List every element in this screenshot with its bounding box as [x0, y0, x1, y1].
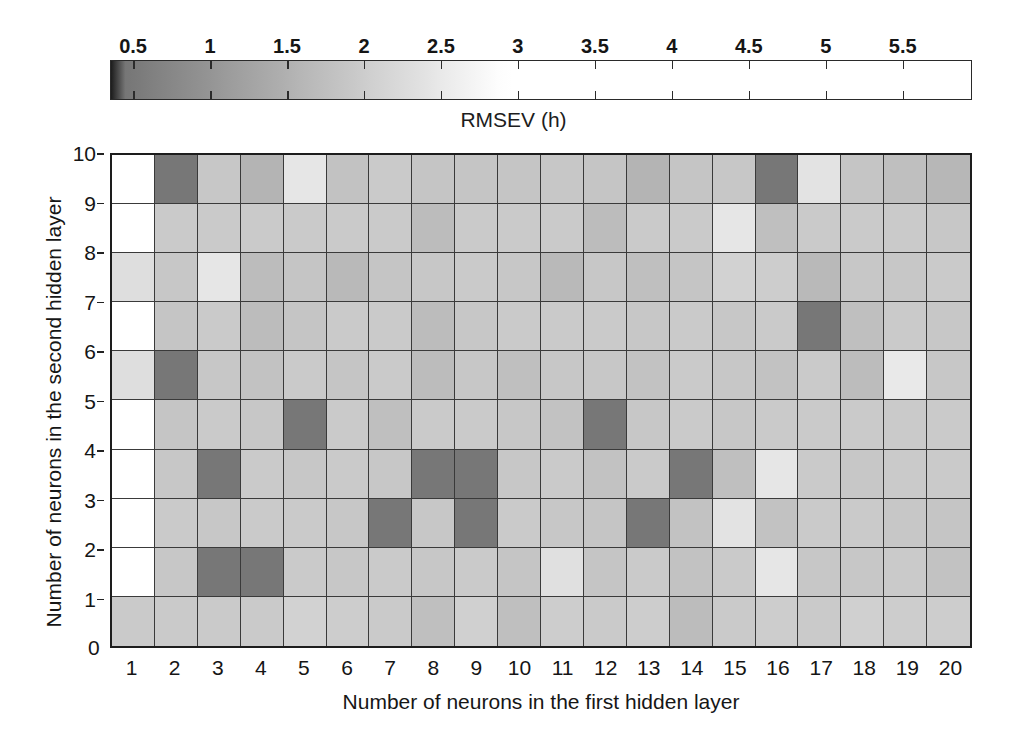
heatmap-cell — [584, 155, 627, 204]
heatmap-cell — [455, 204, 498, 253]
heatmap-cell — [713, 499, 756, 548]
heatmap-cell — [284, 597, 327, 646]
heatmap-cell — [756, 548, 799, 597]
heatmap-cell — [541, 253, 584, 302]
heatmap-cell — [198, 253, 241, 302]
heatmap-cell — [841, 400, 884, 449]
heatmap-cell — [412, 499, 455, 548]
x-axis-tick-label: 4 — [255, 655, 267, 681]
heatmap-cell — [884, 302, 927, 351]
heatmap-cell — [756, 155, 799, 204]
heatmap-cell — [198, 548, 241, 597]
heatmap-cell — [241, 253, 284, 302]
heatmap-cell — [155, 400, 198, 449]
heatmap-cell — [112, 450, 155, 499]
heatmap-cell — [541, 302, 584, 351]
x-axis-tick-label: 3 — [212, 655, 224, 681]
heatmap-cell — [798, 597, 841, 646]
heatmap-cell — [155, 204, 198, 253]
heatmap-cell — [455, 155, 498, 204]
heatmap-cell — [841, 155, 884, 204]
heatmap-cell — [327, 499, 370, 548]
heatmap-cell — [498, 155, 541, 204]
heatmap-cell — [884, 597, 927, 646]
heatmap-cell — [841, 499, 884, 548]
heatmap-cell — [541, 400, 584, 449]
heatmap-cell — [798, 400, 841, 449]
heatmap-cell — [112, 400, 155, 449]
heatmap-cell — [327, 302, 370, 351]
heatmap-cell — [798, 351, 841, 400]
heatmap-cell — [670, 155, 713, 204]
heatmap-cell — [155, 253, 198, 302]
y-axis-tick-mark — [97, 549, 104, 551]
y-axis-tick-label: 9 — [84, 192, 96, 213]
heatmap-cell — [369, 450, 412, 499]
heatmap-cell — [455, 253, 498, 302]
heatmap-cell — [112, 351, 155, 400]
heatmap-cell — [112, 548, 155, 597]
heatmap-cell — [927, 450, 970, 499]
heatmap-cell — [841, 204, 884, 253]
heatmap-cell — [112, 499, 155, 548]
heatmap-cell — [241, 450, 284, 499]
heatmap-cell — [455, 450, 498, 499]
y-axis-tick-mark — [97, 203, 104, 205]
heatmap-cell — [155, 499, 198, 548]
heatmap-cell — [284, 204, 327, 253]
heatmap-cell — [498, 450, 541, 499]
heatmap-cell — [412, 204, 455, 253]
y-axis-tick-label: 3 — [84, 489, 96, 510]
heatmap-cell — [884, 155, 927, 204]
heatmap-grid — [112, 155, 970, 646]
heatmap-cell — [541, 351, 584, 400]
heatmap-cell — [198, 155, 241, 204]
y-axis-tick-mark — [97, 401, 104, 403]
heatmap-cell — [412, 351, 455, 400]
y-axis-tick-label: 8 — [84, 242, 96, 263]
heatmap-cell — [841, 351, 884, 400]
heatmap-cell — [713, 253, 756, 302]
heatmap-cell — [541, 204, 584, 253]
heatmap-cell — [241, 548, 284, 597]
heatmap-cell — [927, 597, 970, 646]
y-axis-tick-mark — [97, 351, 104, 353]
heatmap-cell — [198, 499, 241, 548]
heatmap-cell — [584, 499, 627, 548]
y-axis-tick-label: 10 — [73, 143, 96, 164]
heatmap-cell — [412, 597, 455, 646]
y-axis-tick-label: 2 — [84, 539, 96, 560]
heatmap-cell — [841, 302, 884, 351]
heatmap-cell — [927, 253, 970, 302]
heatmap-cell — [498, 351, 541, 400]
y-axis-tick-label: 1 — [84, 588, 96, 609]
heatmap-cell — [284, 302, 327, 351]
heatmap-cell — [412, 302, 455, 351]
x-axis-tick-label: 9 — [471, 655, 483, 681]
heatmap-cell — [155, 597, 198, 646]
heatmap-cell — [670, 548, 713, 597]
x-axis-tick-label: 2 — [169, 655, 181, 681]
heatmap-cell — [713, 204, 756, 253]
heatmap-cell — [284, 548, 327, 597]
heatmap-cell — [327, 400, 370, 449]
heatmap-cell — [498, 548, 541, 597]
heatmap-cell — [713, 597, 756, 646]
heatmap-cell — [241, 204, 284, 253]
x-axis-title: Number of neurons in the first hidden la… — [110, 690, 972, 714]
heatmap-cell — [284, 351, 327, 400]
heatmap-cell — [884, 351, 927, 400]
heatmap-cell — [670, 351, 713, 400]
heatmap-cell — [241, 302, 284, 351]
heatmap-cell — [369, 597, 412, 646]
heatmap-cell — [798, 155, 841, 204]
heatmap-cell — [198, 597, 241, 646]
heatmap-cell — [412, 400, 455, 449]
x-axis-tick-label: 12 — [594, 655, 617, 681]
x-axis-tick-label: 14 — [680, 655, 703, 681]
heatmap-cell — [884, 400, 927, 449]
heatmap-frame — [110, 153, 972, 648]
heatmap-cell — [369, 400, 412, 449]
heatmap-cell — [841, 253, 884, 302]
heatmap-cell — [670, 204, 713, 253]
